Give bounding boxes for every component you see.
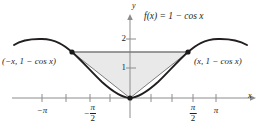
neg-half-pi-denominator: 2 — [90, 114, 97, 123]
y-tick-label-2: 2 — [114, 34, 126, 43]
x-tick-label-half-pi: π 2 — [190, 103, 197, 123]
y-tick-label-1: 1 — [114, 63, 126, 72]
y-axis-label: y — [132, 2, 136, 10]
left-point-coordinate-label: (−x, 1 − cos x) — [2, 57, 56, 66]
y-axis-arrowhead — [127, 14, 133, 20]
x-tick-label-neg-pi: −π — [37, 106, 48, 115]
neg-half-pi-sign: − — [84, 109, 89, 118]
right-point-marker — [185, 49, 190, 54]
right-point-coordinate-label: (x, 1 − cos x) — [194, 57, 242, 66]
neg-half-pi-fraction: π 2 — [90, 103, 97, 123]
x-tick-label-pi: π — [214, 106, 219, 115]
origin-point-marker — [127, 95, 132, 100]
x-axis-label: x — [248, 92, 252, 100]
left-point-marker — [69, 49, 74, 54]
function-equation-label: f(x) = 1 − cos x — [144, 12, 204, 22]
cosine-function-figure: f(x) = 1 − cos x y x (−x, 1 − cos x) (x,… — [0, 0, 261, 128]
half-pi-numerator: π — [190, 103, 197, 112]
neg-half-pi-numerator: π — [90, 103, 97, 112]
half-pi-fraction: π 2 — [190, 103, 197, 123]
half-pi-denominator: 2 — [190, 114, 197, 123]
x-tick-label-neg-half-pi: − π 2 — [84, 103, 96, 123]
